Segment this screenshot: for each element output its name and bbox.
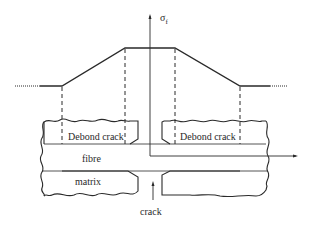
fibre-band bbox=[42, 144, 268, 171]
matrix-block-upper-right bbox=[164, 120, 266, 122]
debond-crack-left-label: Debond crack bbox=[68, 131, 124, 142]
crack-arrowhead-icon bbox=[152, 181, 155, 186]
stress-profile bbox=[15, 48, 287, 86]
projection-lines bbox=[62, 49, 240, 144]
axis-arrowhead-up-icon bbox=[149, 14, 152, 19]
matrix-edge-right-wavy bbox=[266, 121, 269, 190]
x-axis bbox=[150, 155, 298, 158]
matrix-label: matrix bbox=[75, 176, 101, 187]
sigma-axis-label: σf bbox=[160, 12, 168, 26]
stress-curve bbox=[40, 48, 270, 86]
crack-label: crack bbox=[140, 206, 162, 217]
fibre-label: fibre bbox=[82, 153, 101, 164]
sigma-axis bbox=[149, 14, 152, 156]
debond-right-inner-edge bbox=[162, 121, 170, 144]
fibre-debond-stress-diagram: σf Debond crack Debond crack fibre matri… bbox=[0, 0, 314, 230]
axis-arrowhead-right-icon bbox=[293, 155, 298, 158]
matrix-edge-left-wavy bbox=[40, 122, 44, 196]
crack-indicator bbox=[152, 181, 155, 200]
matrix-block-lower-right bbox=[162, 171, 266, 197]
debond-crack-right-label: Debond crack bbox=[180, 131, 236, 142]
